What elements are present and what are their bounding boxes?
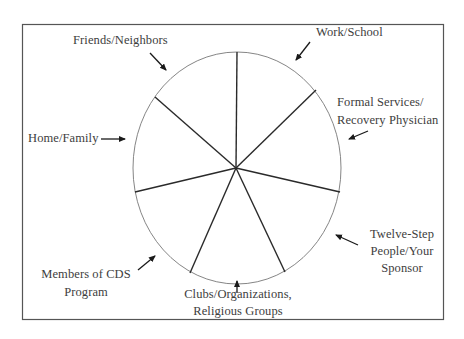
label-text-line2: Religious Groups [178, 303, 298, 320]
label-text-line3: Sponsor [366, 260, 438, 277]
label-text: Friends/Neighbors [73, 33, 168, 47]
label-text-line1: Clubs/Organizations, [178, 286, 298, 303]
label-text-line1: Twelve-Step [366, 226, 438, 243]
spoke-lower-left [190, 168, 236, 273]
arrow-cds-icon [138, 256, 155, 270]
label-text: Work/School [316, 25, 383, 39]
label-clubs-organizations: Clubs/Organizations, Religious Groups [178, 286, 298, 320]
spoke-lower-right [236, 168, 285, 272]
spoke-left [135, 168, 236, 192]
arrow-twelve-icon [336, 235, 358, 245]
spoke-upper-right [236, 90, 316, 168]
label-twelve-step: Twelve-Step People/Your Sponsor [366, 226, 438, 277]
label-members-cds: Members of CDS Program [36, 265, 136, 301]
arrow-friends-icon [150, 53, 166, 70]
label-text-line2: People/Your [366, 243, 438, 260]
label-home-family: Home/Family [28, 130, 99, 147]
label-text-line2: Recovery Physician [337, 111, 438, 129]
arrow-formal-icon [349, 131, 368, 139]
label-formal-services: Formal Services/ Recovery Physician [337, 93, 438, 129]
arrow-work-icon [296, 42, 310, 60]
label-text-line2: Program [36, 283, 136, 301]
label-text: Home/Family [28, 131, 99, 145]
label-friends-neighbors: Friends/Neighbors [73, 32, 168, 49]
spoke-right [236, 168, 340, 192]
spoke-upper-left [155, 97, 236, 168]
label-work-school: Work/School [316, 24, 383, 41]
label-text-line1: Members of CDS [36, 265, 136, 283]
label-text-line1: Formal Services/ [337, 93, 438, 111]
spoke-top [236, 52, 237, 168]
